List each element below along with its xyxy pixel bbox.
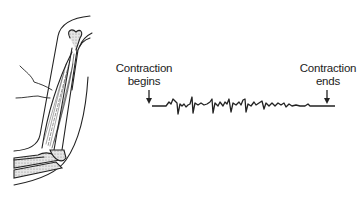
arm-illustration bbox=[14, 16, 92, 185]
contraction-begins-label: Contraction begins bbox=[108, 62, 180, 88]
label-line-2: begins bbox=[108, 75, 180, 88]
contraction-ends-label: Contraction ends bbox=[292, 62, 361, 88]
label-line-1: Contraction bbox=[292, 62, 361, 75]
contraction-ends-arrow bbox=[324, 90, 330, 104]
emg-diagram bbox=[0, 0, 361, 198]
label-line-2: ends bbox=[292, 75, 361, 88]
label-line-1: Contraction bbox=[108, 62, 180, 75]
emg-trace bbox=[152, 97, 335, 114]
contraction-begins-arrow bbox=[146, 90, 152, 104]
